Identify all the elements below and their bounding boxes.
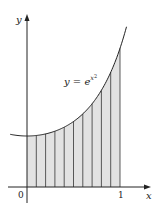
function-label: y = ex2 — [63, 73, 97, 87]
riemann-diagram: y x 0 1 y = ex2 — [0, 0, 165, 216]
x-axis-arrow-icon — [144, 185, 151, 190]
function-label-base: y = e — [63, 76, 90, 87]
y-axis-arrow-icon — [25, 14, 30, 21]
x-tick-label-1: 1 — [118, 190, 124, 200]
origin-label: 0 — [18, 190, 24, 200]
x-axis-label: x — [146, 190, 152, 201]
function-label-exponent-power: 2 — [94, 73, 97, 79]
y-axis-label: y — [15, 14, 22, 25]
